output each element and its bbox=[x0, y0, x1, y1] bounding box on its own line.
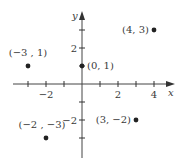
data-point-marker bbox=[80, 64, 85, 69]
data-point-label: (3, −2) bbox=[96, 114, 131, 125]
data-point-marker bbox=[26, 64, 31, 69]
data-point-label: (4, 3) bbox=[122, 24, 149, 35]
data-point-marker bbox=[44, 136, 49, 141]
y-axis-arrow-icon bbox=[79, 11, 85, 20]
data-points: (4, 3)(−3 , 1)(0, 1)(−2 , −3)(3, −2) bbox=[9, 24, 157, 140]
data-point-label: (−3 , 1) bbox=[9, 47, 48, 58]
x-tick-label: 4 bbox=[151, 89, 157, 100]
y-axis-label: y bbox=[71, 10, 78, 21]
data-point-label: (−2 , −3) bbox=[19, 119, 66, 130]
x-axis-label: x bbox=[168, 87, 174, 98]
data-point-label: (0, 1) bbox=[87, 60, 114, 71]
coordinate-plane: x y −2242−2 (4, 3)(−3 , 1)(0, 1)(−2 , −3… bbox=[0, 0, 187, 167]
x-tick-label: 2 bbox=[115, 89, 121, 100]
x-tick-label: −2 bbox=[39, 89, 54, 100]
data-point-marker bbox=[152, 28, 157, 33]
data-point-marker bbox=[134, 118, 139, 123]
y-tick-label: 2 bbox=[71, 43, 77, 54]
